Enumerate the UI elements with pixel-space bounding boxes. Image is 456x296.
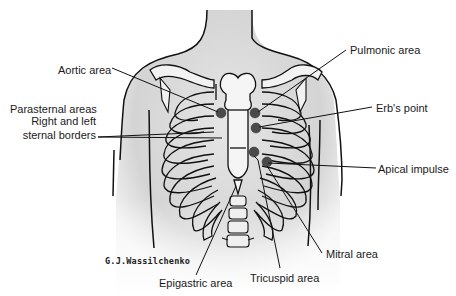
chest-diagram: Aortic area Pulmonic area Parasternal ar… bbox=[0, 0, 456, 296]
label-sternal-borders: sternal borders bbox=[10, 129, 96, 141]
artist-signature: G.J.Wassilchenko bbox=[105, 256, 190, 266]
label-mitral-area: Mitral area bbox=[326, 248, 378, 260]
label-epigastric-area: Epigastric area bbox=[159, 277, 232, 289]
mitral-marker bbox=[262, 157, 272, 167]
label-erbs-point: Erb's point bbox=[376, 102, 428, 114]
aortic-marker bbox=[216, 108, 226, 118]
label-parasternal-areas: Parasternal areas bbox=[10, 103, 96, 115]
label-aortic-area: Aortic area bbox=[58, 64, 111, 76]
erbs-point-marker bbox=[251, 123, 261, 133]
pulmonic-marker bbox=[250, 108, 260, 118]
label-pulmonic-area: Pulmonic area bbox=[350, 44, 420, 56]
label-apical-impulse: Apical impulse bbox=[378, 163, 449, 175]
label-right-left: Right and left bbox=[10, 115, 96, 127]
label-tricuspid-area: Tricuspid area bbox=[250, 272, 319, 284]
tricuspid-marker bbox=[249, 147, 259, 157]
